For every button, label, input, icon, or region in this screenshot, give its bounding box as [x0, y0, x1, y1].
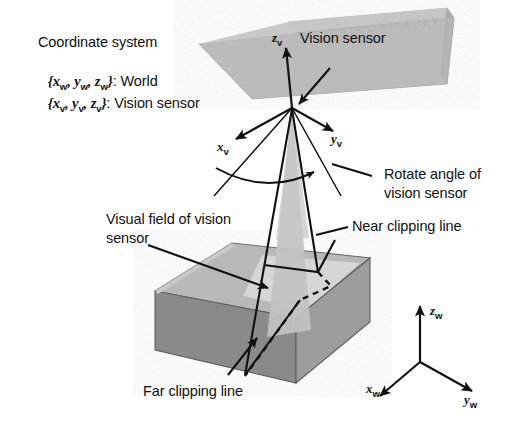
- label-axis-xv: xv: [217, 139, 229, 157]
- label-rotate-angle-line1: Rotate angle of: [384, 166, 481, 183]
- legend-sensor-axes: {xv, yv, zv}: [48, 95, 107, 111]
- axis-xv: [236, 108, 292, 139]
- leader-rotate-angle: [332, 164, 372, 176]
- label-axis-yv: yv: [331, 131, 342, 149]
- label-axis-zw: zw: [430, 303, 442, 321]
- label-rotate-angle-line2: vision sensor: [384, 185, 467, 202]
- label-axis-zv: zv: [272, 30, 282, 48]
- legend-sensor-line: {xv, yv, zv}: Vision sensor: [32, 78, 200, 131]
- label-visual-field-line1: Visual field of vision: [106, 211, 231, 228]
- label-axis-xw: xw: [366, 381, 380, 399]
- legend-sensor-value: : Vision sensor: [106, 95, 199, 111]
- label-vision-sensor: Vision sensor: [300, 30, 385, 47]
- label-axis-yw: yw: [464, 392, 477, 410]
- axis-yw: [420, 362, 472, 391]
- label-visual-field-line2: sensor: [106, 230, 149, 247]
- diagram-canvas: LATEX VICTORY Coordinate system {xw, yw,…: [0, 0, 508, 427]
- ground-box: [155, 243, 370, 383]
- axis-xw: [380, 362, 420, 396]
- legend-heading: Coordinate system: [38, 34, 157, 51]
- label-near-clipping-line: Near clipping line: [352, 218, 461, 235]
- visual-field-frustum: [267, 108, 311, 337]
- label-far-clipping-line: Far clipping line: [143, 383, 243, 400]
- world-axes: [380, 306, 472, 396]
- leader-near-clipping: [316, 227, 348, 235]
